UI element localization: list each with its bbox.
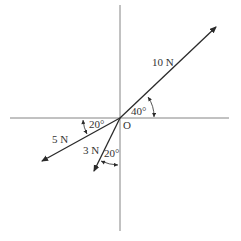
force-diagram: 10 N 40° 5 N 20° 3 N 20° O [0, 0, 241, 241]
origin-label: O [123, 119, 131, 131]
force-10N-label: 10 N [152, 56, 174, 68]
angle-arc-20-left [83, 120, 87, 134]
diagram-svg: 10 N 40° 5 N 20° 3 N 20° O [0, 0, 241, 241]
force-5N-label: 5 N [52, 133, 68, 145]
force-10N: 10 N 40° [120, 27, 216, 118]
angle-arc-40 [148, 97, 154, 117]
angle-arc-20-bottom [101, 161, 118, 165]
angle-40-label: 40° [131, 105, 146, 117]
angle-20-bottom-label: 20° [104, 147, 119, 159]
force-3N-label: 3 N [83, 144, 99, 156]
angle-20-left-label: 20° [89, 118, 104, 130]
